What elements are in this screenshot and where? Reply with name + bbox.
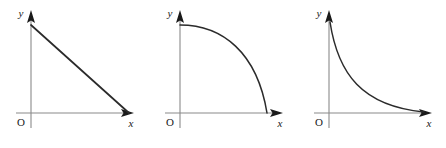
convex-curve xyxy=(330,22,424,112)
three-graph-figure: y x O y x O xyxy=(0,0,446,148)
graph-panel-concave: y x O xyxy=(149,0,297,148)
graph-panel-convex: y x O xyxy=(298,0,446,148)
x-axis-label: x xyxy=(277,117,283,129)
linear-curve xyxy=(31,25,129,113)
y-axis-label: y xyxy=(316,7,322,19)
origin-label: O xyxy=(17,116,25,128)
origin-label: O xyxy=(315,116,323,128)
y-axis-label: y xyxy=(18,7,24,19)
x-axis-label: x xyxy=(128,117,134,129)
origin-label: O xyxy=(166,116,174,128)
graph-panel-linear: y x O xyxy=(0,0,148,148)
x-axis-label: x xyxy=(426,117,432,129)
y-axis-label: y xyxy=(167,7,173,19)
concave-curve xyxy=(180,25,267,113)
